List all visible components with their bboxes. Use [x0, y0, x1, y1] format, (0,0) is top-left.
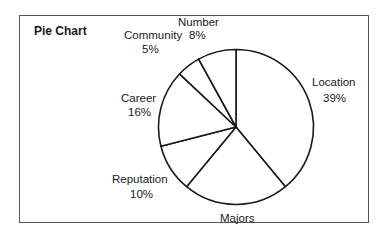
- label-community: Community: [124, 28, 182, 42]
- label-location-pct: 39%: [323, 91, 346, 105]
- label-reputation: Reputation: [112, 172, 168, 186]
- label-reputation-pct: 10%: [130, 187, 153, 201]
- label-location: Location: [312, 75, 355, 89]
- pie-slices: [158, 50, 313, 205]
- label-community-pct: 5%: [142, 42, 159, 56]
- label-career-pct: 16%: [128, 105, 151, 119]
- label-career: Career: [121, 91, 156, 105]
- label-number-pct: 8%: [189, 28, 206, 42]
- label-majors: Majors: [220, 211, 255, 225]
- label-number: Number: [178, 15, 219, 29]
